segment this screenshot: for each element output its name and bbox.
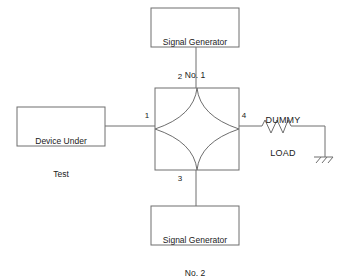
device-under-test-line2: Test: [17, 169, 105, 180]
dummy-load-line1: DUMMY: [252, 115, 314, 126]
signal-generator-1-line1: Signal Generator: [151, 37, 239, 48]
signal-generator-1-label: Signal Generator No. 1: [151, 15, 239, 103]
device-under-test-label: Device Under Test: [17, 114, 105, 202]
port-4-label: 4: [238, 110, 250, 121]
port-2-label: 2: [174, 71, 186, 82]
signal-generator-2-line1: Signal Generator: [151, 235, 239, 246]
dummy-load-label: DUMMY LOAD: [252, 93, 314, 181]
port-1-label: 1: [141, 110, 153, 121]
port-3-label: 3: [174, 173, 186, 184]
signal-generator-2-line2: No. 2: [151, 268, 239, 279]
dummy-load-line2: LOAD: [252, 148, 314, 159]
ground-symbol-icon: [314, 157, 333, 163]
signal-generator-2-label: Signal Generator No. 2: [151, 213, 239, 280]
signal-generator-1-line2: No. 1: [151, 70, 239, 81]
device-under-test-line1: Device Under: [17, 136, 105, 147]
